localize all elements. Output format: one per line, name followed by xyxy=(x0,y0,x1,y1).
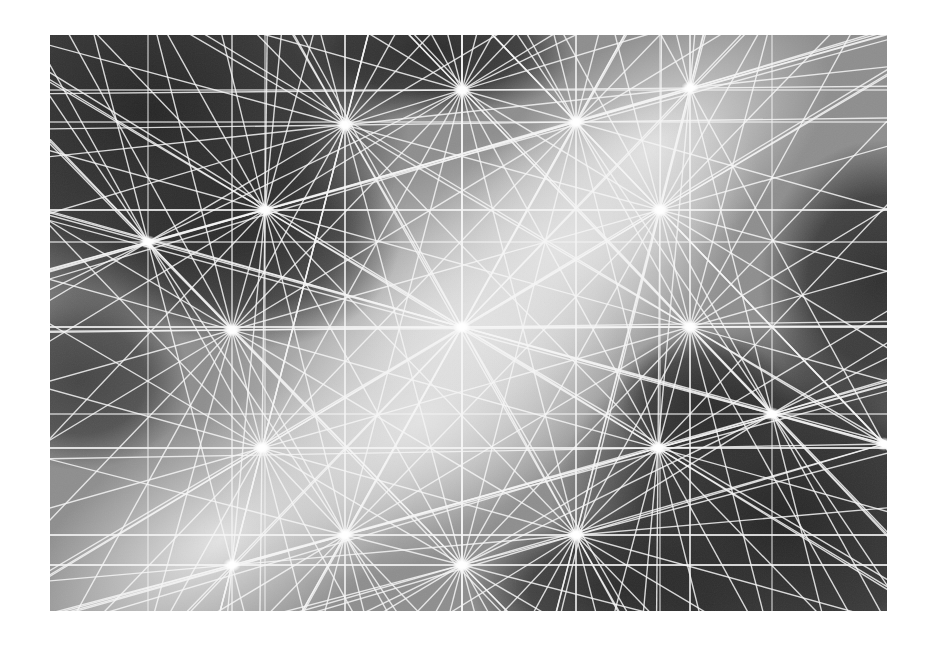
node-core xyxy=(769,411,775,417)
node-core xyxy=(259,445,265,451)
node-core xyxy=(655,445,661,451)
node-core xyxy=(881,441,887,447)
line-network xyxy=(50,35,887,611)
node-core xyxy=(145,239,151,245)
node-core xyxy=(262,207,268,213)
node-core xyxy=(687,324,693,330)
node-core xyxy=(229,327,235,333)
node-core xyxy=(459,87,465,93)
node-core xyxy=(342,122,348,128)
node-core xyxy=(687,85,693,91)
node-core xyxy=(657,207,663,213)
node-core xyxy=(459,324,465,330)
node-core xyxy=(342,532,348,538)
node-core xyxy=(573,119,579,125)
node-core xyxy=(459,562,465,568)
geometric-artwork xyxy=(50,35,887,611)
node-core xyxy=(229,562,235,568)
node-core xyxy=(573,532,579,538)
